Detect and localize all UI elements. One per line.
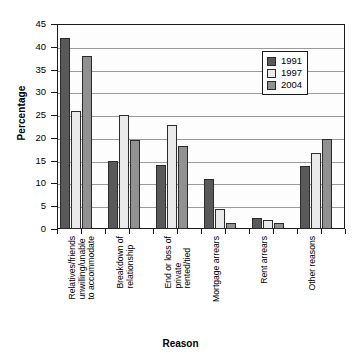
bar-1997 [311, 153, 321, 230]
y-axis-tick-label: 35 [12, 64, 46, 75]
bar-2004 [226, 223, 236, 229]
bar-2004 [322, 139, 332, 229]
legend: 199119972004 [262, 51, 308, 95]
bar-group [153, 24, 201, 229]
bar-chart: Percentage 051015202530354045 Relatives/… [0, 0, 361, 357]
bar-1997 [215, 209, 225, 229]
x-axis-label-2: Breakdown ofrelationship [116, 236, 135, 289]
x-axis-label-line: Other reasons [308, 236, 318, 290]
x-axis-label-6: Other reasons [308, 236, 318, 290]
x-axis-tick-mark [321, 229, 322, 234]
y-axis-tick-label: 45 [12, 18, 46, 29]
x-axis-tick-mark [105, 229, 106, 234]
bar-1991 [300, 166, 310, 229]
legend-swatch-1991 [267, 57, 276, 66]
bar-1991 [252, 218, 262, 229]
x-axis-tick-mark [345, 229, 346, 234]
bar-1997 [71, 111, 81, 229]
y-axis-tick-label: 15 [12, 155, 46, 166]
legend-swatch-1997 [267, 69, 276, 78]
x-axis-tick-mark [81, 229, 82, 234]
y-axis-tick-label: 20 [12, 132, 46, 143]
bar-2004 [130, 140, 140, 229]
x-axis-title: Reason [0, 338, 361, 349]
y-axis-tick-label: 40 [12, 41, 46, 52]
y-axis-tick-label: 25 [12, 109, 46, 120]
bar-1991 [60, 38, 70, 229]
x-axis-tick-mark [201, 229, 202, 234]
x-axis-tick-mark [225, 229, 226, 234]
x-axis-tick-mark [57, 229, 58, 234]
x-axis-tick-mark [153, 229, 154, 234]
legend-item-1997: 1997 [267, 67, 302, 79]
legend-item-1991: 1991 [267, 55, 302, 67]
x-axis-label-5: Rent arrears [260, 236, 270, 284]
legend-label: 2004 [281, 80, 302, 90]
x-axis-label-1: Relatives/friendsunwilling/unableto acco… [68, 236, 97, 300]
x-axis-tick-mark [129, 229, 130, 234]
x-axis-tick-mark [273, 229, 274, 234]
caption-cutoff [14, 351, 314, 357]
y-axis-tick-label: 10 [12, 177, 46, 188]
x-axis-label-4: Mortgage arrears [212, 236, 222, 302]
x-axis-tick-mark [177, 229, 178, 234]
x-axis-label-line: Rent arrears [260, 236, 270, 284]
bar-2004 [274, 223, 284, 229]
x-axis-label-line: relationship [126, 236, 136, 289]
legend-label: 1997 [281, 68, 302, 78]
bar-2004 [82, 56, 92, 229]
bar-group [105, 24, 153, 229]
legend-item-2004: 2004 [267, 79, 302, 91]
x-axis-label-3: End or loss ofprivaterented/tied [164, 236, 193, 289]
bar-1991 [108, 161, 118, 229]
x-axis-tick-mark [297, 229, 298, 234]
bar-1997 [119, 115, 129, 229]
x-axis-label-line: to accommodate [87, 236, 97, 300]
y-axis-tick-label: 30 [12, 86, 46, 97]
legend-label: 1991 [281, 56, 302, 66]
bar-1997 [263, 220, 273, 229]
x-axis-label-line: Mortgage arrears [212, 236, 222, 302]
bar-1991 [156, 165, 166, 229]
bar-1997 [167, 125, 177, 229]
legend-swatch-2004 [267, 81, 276, 90]
bar-group [201, 24, 249, 229]
y-axis-tick-label: 5 [12, 200, 46, 211]
bar-group [57, 24, 105, 229]
bar-2004 [178, 146, 188, 229]
x-axis-tick-mark [249, 229, 250, 234]
x-axis-label-line: rented/tied [183, 236, 193, 289]
y-axis-tick-label: 0 [12, 223, 46, 234]
bar-1991 [204, 179, 214, 229]
